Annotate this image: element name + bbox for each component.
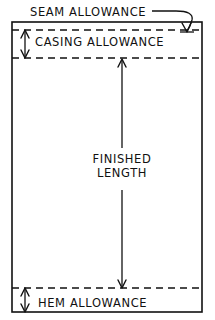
diagram-canvas: SEAM ALLOWANCE CASING ALLOWANCE FINISHED… (0, 0, 215, 320)
casing-allowance-label: CASING ALLOWANCE (35, 35, 164, 49)
finished-length-label-line2: LENGTH (97, 166, 147, 180)
finished-length-label-line1: FINISHED (93, 152, 152, 166)
technical-diagram: SEAM ALLOWANCE CASING ALLOWANCE FINISHED… (0, 0, 215, 320)
hem-allowance-label: HEM ALLOWANCE (38, 296, 147, 310)
seam-allowance-label: SEAM ALLOWANCE (30, 5, 146, 19)
